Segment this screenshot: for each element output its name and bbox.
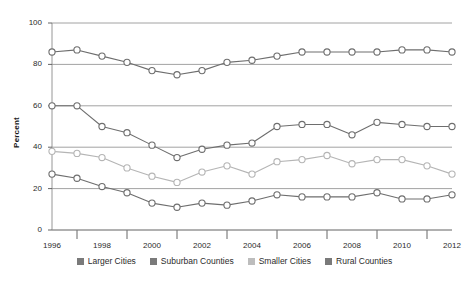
data-point — [449, 192, 455, 198]
x-tick-label: 2002 — [182, 241, 222, 250]
data-point — [274, 123, 280, 129]
x-tick-label: 2004 — [232, 241, 272, 250]
data-series-group — [49, 47, 455, 211]
legend-label: Smaller Cities — [259, 256, 311, 266]
legend-item[interactable]: Smaller Cities — [248, 256, 311, 266]
data-point — [299, 121, 305, 127]
data-point — [324, 121, 330, 127]
data-point — [224, 163, 230, 169]
data-point — [274, 159, 280, 165]
data-point — [324, 49, 330, 55]
legend-item[interactable]: Rural Counties — [325, 256, 392, 266]
series-larger-cities — [49, 47, 455, 78]
data-point — [199, 68, 205, 74]
data-point — [299, 157, 305, 163]
data-point — [324, 152, 330, 158]
data-point — [249, 140, 255, 146]
data-point — [174, 179, 180, 185]
data-point — [99, 183, 105, 189]
legend-item[interactable]: Larger Cities — [77, 256, 136, 266]
data-point — [249, 57, 255, 63]
data-point — [399, 121, 405, 127]
data-point — [274, 192, 280, 198]
data-point — [174, 154, 180, 160]
data-point — [374, 190, 380, 196]
data-point — [424, 196, 430, 202]
y-tick-label: 80 — [20, 59, 42, 68]
data-point — [99, 53, 105, 59]
series-line — [52, 106, 452, 158]
data-point — [99, 123, 105, 129]
data-point — [149, 68, 155, 74]
data-point — [124, 59, 130, 65]
legend-label: Rural Counties — [336, 256, 392, 266]
line-chart: Percent 020406080100 1996199820002002200… — [0, 0, 469, 281]
data-point — [374, 119, 380, 125]
data-point — [49, 103, 55, 109]
data-point — [449, 49, 455, 55]
plot-area — [0, 0, 469, 281]
data-point — [124, 130, 130, 136]
data-point — [349, 49, 355, 55]
series-suburban-counties — [49, 103, 455, 161]
legend-label: Larger Cities — [88, 256, 136, 266]
data-point — [449, 171, 455, 177]
data-point — [349, 161, 355, 167]
data-point — [174, 72, 180, 78]
x-tick-label: 2008 — [332, 241, 372, 250]
data-point — [124, 190, 130, 196]
y-tick-label: 0 — [20, 225, 42, 234]
data-point — [224, 59, 230, 65]
legend-swatch-icon — [325, 258, 332, 265]
x-tick-label: 2006 — [282, 241, 322, 250]
data-point — [424, 163, 430, 169]
data-point — [349, 132, 355, 138]
data-point — [274, 53, 280, 59]
y-tick-label: 20 — [20, 184, 42, 193]
data-point — [399, 157, 405, 163]
y-tick-label: 100 — [20, 18, 42, 27]
x-tick-label: 2000 — [132, 241, 172, 250]
data-point — [449, 123, 455, 129]
data-point — [199, 169, 205, 175]
data-point — [149, 173, 155, 179]
data-point — [199, 200, 205, 206]
legend-item[interactable]: Suburban Counties — [150, 256, 234, 266]
chart-legend: Larger CitiesSuburban CountiesSmaller Ci… — [0, 256, 469, 266]
data-point — [74, 150, 80, 156]
data-point — [224, 202, 230, 208]
data-point — [49, 148, 55, 154]
data-point — [99, 154, 105, 160]
x-axis-ticks — [52, 230, 452, 239]
data-point — [74, 103, 80, 109]
data-point — [74, 47, 80, 53]
data-point — [349, 194, 355, 200]
data-point — [374, 157, 380, 163]
legend-label: Suburban Counties — [161, 256, 234, 266]
data-point — [374, 49, 380, 55]
legend-swatch-icon — [248, 258, 255, 265]
y-tick-label: 60 — [20, 101, 42, 110]
x-tick-label: 1996 — [32, 241, 72, 250]
data-point — [324, 194, 330, 200]
data-point — [224, 142, 230, 148]
data-point — [174, 204, 180, 210]
data-point — [49, 171, 55, 177]
data-point — [249, 198, 255, 204]
data-point — [424, 123, 430, 129]
data-point — [299, 49, 305, 55]
x-tick-label: 1998 — [82, 241, 122, 250]
data-point — [399, 196, 405, 202]
data-point — [49, 49, 55, 55]
legend-swatch-icon — [77, 258, 84, 265]
x-tick-label: 2012 — [432, 241, 469, 250]
data-point — [424, 47, 430, 53]
legend-swatch-icon — [150, 258, 157, 265]
data-point — [74, 175, 80, 181]
series-smaller-cities — [49, 148, 455, 185]
data-point — [299, 194, 305, 200]
data-point — [149, 200, 155, 206]
y-tick-label: 40 — [20, 142, 42, 151]
data-point — [199, 146, 205, 152]
data-point — [149, 142, 155, 148]
